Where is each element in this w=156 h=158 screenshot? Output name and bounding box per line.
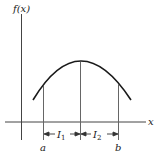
interval-i1-label: I1 xyxy=(56,129,65,142)
interval-i2-label: I2 xyxy=(92,129,101,142)
y-axis-label: f(x) xyxy=(12,3,30,14)
point-a-label: a xyxy=(40,142,46,153)
function-curve xyxy=(33,61,131,100)
interval-i2-subscript: 2 xyxy=(97,134,101,142)
x-axis-label: x xyxy=(148,116,154,127)
point-b-label: b xyxy=(115,142,121,153)
diagram: f(x) x I1 I2 a b xyxy=(0,0,156,158)
interval-i1-subscript: 1 xyxy=(61,134,65,142)
